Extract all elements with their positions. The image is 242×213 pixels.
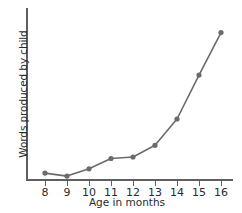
data-point-8 (42, 171, 47, 176)
plot-area: 8910111213141516 (0, 0, 242, 213)
y-axis-title: Words produced by child (17, 9, 29, 179)
data-point-14 (174, 116, 179, 121)
data-point-10 (86, 166, 91, 171)
data-point-12 (130, 154, 135, 159)
x-axis-title: Age in months (27, 196, 227, 208)
series-markers (42, 30, 223, 179)
data-point-16 (218, 30, 223, 35)
data-point-15 (196, 73, 201, 78)
line-chart-figure: 8910111213141516 Words produced by child… (0, 0, 242, 213)
data-point-11 (108, 156, 113, 161)
data-point-9 (64, 174, 69, 179)
data-point-13 (152, 143, 157, 148)
data-series (0, 0, 242, 213)
